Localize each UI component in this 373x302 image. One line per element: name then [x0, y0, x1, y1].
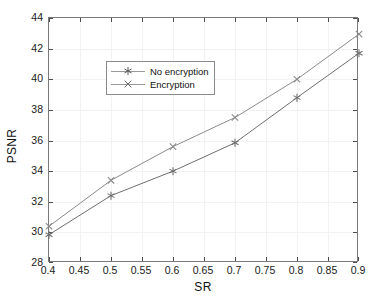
y-tick-label: 30 [43, 225, 55, 237]
y-tick-label: 44 [43, 11, 55, 23]
cross-marker-icon [232, 114, 238, 120]
asterisk-marker-icon [111, 65, 145, 78]
x-tick-label: 0.65 [193, 264, 213, 276]
asterisk-marker-icon [294, 94, 301, 102]
asterisk-marker-icon [170, 167, 177, 175]
y-tick-label: 40 [43, 72, 55, 84]
legend: No encryption Encryption [106, 61, 215, 95]
x-tick-label: 0.6 [165, 264, 180, 276]
y-tick-label: 36 [43, 134, 55, 146]
figure-canvas: No encryption Encryption 0.40.450.50.550… [0, 0, 373, 302]
x-tick-label: 0.85 [317, 264, 337, 276]
y-axis-title: PSNR [5, 116, 19, 176]
x-tick-label: 0.45 [69, 264, 89, 276]
x-tick-label: 0.7 [227, 264, 242, 276]
x-axis-title: SR [48, 280, 358, 294]
data-series-layer [49, 18, 359, 263]
cross-marker-icon [294, 76, 300, 82]
y-tick-label: 38 [43, 103, 55, 115]
legend-label-no-encryption: No encryption [145, 66, 209, 77]
legend-entry-no-encryption: No encryption [111, 65, 209, 78]
y-tick-label: 42 [43, 42, 55, 54]
legend-label-encryption: Encryption [145, 79, 195, 90]
y-tick-label: 34 [43, 164, 55, 176]
asterisk-marker-icon [356, 49, 363, 57]
asterisk-marker-icon [232, 139, 239, 147]
asterisk-marker-icon [108, 192, 115, 200]
cross-marker-icon [108, 177, 114, 183]
cross-marker-icon [356, 31, 362, 37]
y-tick-label: 32 [43, 195, 55, 207]
y-tick-label: 28 [43, 256, 55, 268]
legend-entry-encryption: Encryption [111, 78, 209, 91]
cross-marker-icon [170, 143, 176, 149]
plot-area: No encryption Encryption [48, 17, 358, 262]
x-tick-label: 0.55 [131, 264, 151, 276]
x-tick-label: 0.75 [255, 264, 275, 276]
x-tick-label: 0.5 [103, 264, 118, 276]
x-tick-label: 0.8 [289, 264, 304, 276]
x-tick-label: 0.9 [351, 264, 366, 276]
cross-marker-icon [111, 78, 145, 91]
